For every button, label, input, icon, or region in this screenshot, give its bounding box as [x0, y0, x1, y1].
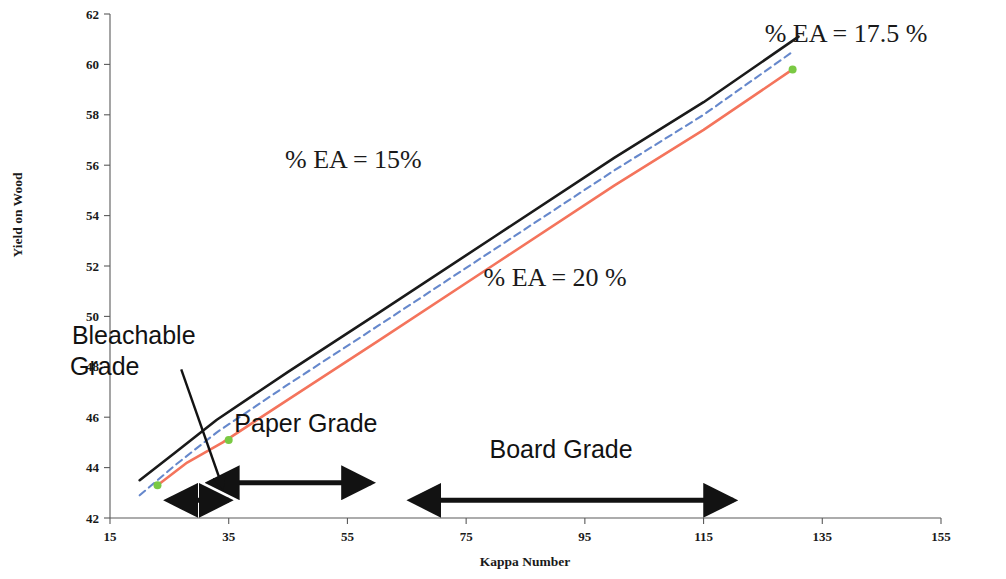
chart-figure: 4244464850525456586062 15355575951151351…	[0, 0, 1006, 579]
y-tick-label: 46	[86, 410, 100, 425]
y-tick-label: 58	[86, 107, 100, 122]
x-tick-label: 115	[694, 529, 713, 544]
chart-canvas: 4244464850525456586062 15355575951151351…	[0, 0, 1006, 579]
green-end-marker	[789, 65, 797, 73]
series-label-17-5: % EA = 17.5 %	[765, 19, 928, 48]
x-tick-label: 75	[460, 529, 474, 544]
y-tick-label: 60	[86, 57, 99, 72]
green-start-marker	[153, 481, 161, 489]
series-label-15: % EA = 15%	[285, 145, 422, 174]
y-tick-label: 42	[86, 511, 99, 526]
green-mid-marker	[225, 436, 233, 444]
y-tick-label: 52	[86, 259, 99, 274]
y-axis-title: Yield on Wood	[10, 172, 25, 257]
x-tick-label: 95	[578, 529, 592, 544]
y-tick-label: 44	[86, 460, 100, 475]
series-label-20: % EA = 20 %	[484, 263, 627, 292]
range-arrows-group	[193, 483, 733, 501]
y-tick-label: 56	[86, 158, 100, 173]
region-label-bleachable-line1: Bleachable	[72, 321, 196, 349]
y-axis-ticks: 4244464850525456586062	[86, 7, 110, 526]
x-tick-label: 55	[341, 529, 355, 544]
x-tick-label: 15	[104, 529, 118, 544]
x-tick-label: 155	[931, 529, 951, 544]
x-axis-ticks: 1535557595115135155	[104, 518, 952, 544]
leader-arrows-group	[181, 369, 223, 487]
region-label-bleachable-line2: Grade	[70, 352, 139, 380]
y-tick-label: 62	[86, 7, 99, 22]
x-tick-label: 135	[813, 529, 833, 544]
x-axis-title: Kappa Number	[480, 554, 570, 569]
region-label-board: Board Grade	[490, 435, 633, 463]
y-tick-label: 54	[86, 208, 100, 223]
bleachable-leader-arrow	[181, 369, 223, 487]
region-label-paper: Paper Grade	[234, 409, 377, 437]
x-tick-label: 35	[222, 529, 236, 544]
annotations-group: % EA = 15%% EA = 17.5 %% EA = 20 %Bleach…	[70, 19, 927, 463]
